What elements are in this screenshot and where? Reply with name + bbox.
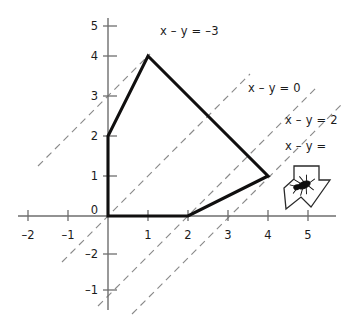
y-tick-labels: 0 1 2 3 4 5 –2 –1 bbox=[85, 19, 98, 297]
x-tick-label--2: –2 bbox=[21, 228, 34, 242]
y-tick-label-0: 0 bbox=[91, 203, 98, 217]
level-line-x-minus-y-equals-minus-3 bbox=[38, 54, 150, 166]
y-axis-ticks bbox=[103, 26, 117, 290]
plot-canvas: –2 –1 1 2 3 4 5 0 1 2 3 4 5 –2 –1 x – y … bbox=[0, 0, 349, 327]
linear-programming-figure: –2 –1 1 2 3 4 5 0 1 2 3 4 5 –2 –1 x – y … bbox=[0, 0, 349, 327]
y-tick-label--2: –1 bbox=[85, 283, 98, 297]
level-line-labels: x – y = –3 x – y = 0 x – y = 2 x – y = bbox=[160, 24, 338, 153]
y-tick-label-4: 4 bbox=[91, 49, 98, 63]
level-label-x-minus-y-equals-2: x – y = 2 bbox=[285, 113, 338, 127]
x-tick-label-3: 3 bbox=[224, 228, 231, 242]
y-tick-label-5: 5 bbox=[91, 19, 98, 33]
level-label-x-minus-y-equals-0: x – y = 0 bbox=[248, 81, 301, 95]
level-label-x-minus-y-equals-clipped: x – y = bbox=[285, 139, 326, 153]
arrow-with-fly-icon bbox=[284, 166, 330, 209]
level-label-x-minus-y-equals-minus-3: x – y = –3 bbox=[160, 24, 219, 38]
x-tick-label-4: 4 bbox=[264, 228, 271, 242]
y-tick-label-2: 2 bbox=[91, 129, 98, 143]
x-tick-label-1: 1 bbox=[144, 228, 151, 242]
x-tick-label-5: 5 bbox=[304, 228, 311, 242]
y-tick-label-3: 3 bbox=[91, 89, 98, 103]
y-tick-label-1: 1 bbox=[91, 169, 98, 183]
level-line-x-minus-y-equals-clipped bbox=[132, 102, 344, 314]
x-tick-label--1: –1 bbox=[61, 228, 74, 242]
y-tick-label--1: –2 bbox=[85, 247, 98, 261]
axes-group bbox=[18, 18, 336, 310]
x-tick-label-2: 2 bbox=[184, 228, 191, 242]
x-tick-labels: –2 –1 1 2 3 4 5 bbox=[21, 228, 311, 242]
